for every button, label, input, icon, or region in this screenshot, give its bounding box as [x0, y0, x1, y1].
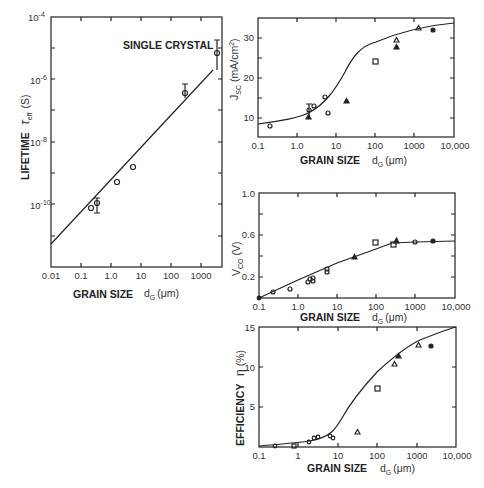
lifetime-y-label: LIFETIME: [19, 132, 31, 180]
svg-text:10-8: 10-8: [30, 136, 47, 148]
jsc-point: [326, 111, 330, 115]
svg-text:15: 15: [244, 322, 255, 333]
svg-text:10: 10: [243, 112, 254, 123]
jsc-point: [323, 95, 327, 99]
lifetime-x-unit: dG(μm): [144, 287, 179, 301]
jsc-point: [306, 115, 311, 120]
lifetime-point: [131, 165, 136, 170]
svg-text:0.1: 0.1: [252, 301, 265, 312]
efficiency-point: [312, 436, 316, 440]
jsc-x-label: GRAIN SIZE: [300, 154, 360, 166]
jsc-point: [312, 104, 316, 108]
svg-text:100: 100: [163, 270, 179, 281]
jsc-point: [268, 124, 272, 128]
efficiency-y-ticks: 5 10 15: [244, 322, 255, 412]
voc-point: [288, 287, 292, 291]
efficiency-point: [375, 386, 380, 391]
voc-axes-frame: [259, 193, 455, 298]
svg-text:1000: 1000: [190, 270, 211, 281]
lifetime-y-unit: τeff(S): [17, 94, 33, 125]
jsc-x-ticks: 0.1 1.0 10 100 1000 10,000: [251, 140, 469, 151]
svg-text:1.0: 1.0: [242, 188, 255, 199]
voc-point: [394, 238, 399, 243]
efficiency-point: [331, 436, 335, 440]
voc-chart: [257, 193, 455, 300]
efficiency-point: [355, 430, 360, 435]
efficiency-x-ticks: 0.1 1 10 100 1000 10,000: [252, 450, 471, 461]
lifetime-axes-frame: [51, 17, 222, 267]
svg-text:10: 10: [333, 450, 344, 461]
svg-text:10: 10: [331, 140, 342, 151]
voc-x-label: GRAIN SIZE: [300, 311, 360, 323]
voc-point: [431, 239, 435, 243]
efficiency-point: [273, 444, 277, 448]
svg-text:10-6: 10-6: [30, 74, 47, 86]
svg-text:100: 100: [369, 450, 385, 461]
voc-x-unit: dG(μm): [372, 311, 407, 325]
efficiency-x-unit: dG(μm): [380, 462, 415, 476]
voc-x-ticks: 0.1 1.0 10 100 1000 10,000: [252, 301, 470, 312]
svg-text:1000: 1000: [404, 301, 425, 312]
svg-text:10,000: 10,000: [440, 140, 469, 151]
svg-text:0.1: 0.1: [74, 270, 87, 281]
efficiency-chart: [259, 327, 456, 448]
efficiency-y-unit: η(%): [233, 350, 247, 376]
efficiency-point: [416, 343, 421, 348]
efficiency-point: [392, 362, 397, 367]
lifetime-chart: [51, 17, 222, 267]
svg-text:1000: 1000: [406, 450, 427, 461]
voc-point: [352, 255, 357, 260]
svg-text:10,000: 10,000: [442, 450, 471, 461]
efficiency-x-label: GRAIN SIZE: [307, 462, 367, 474]
jsc-chart: [258, 18, 454, 137]
lifetime-point: [115, 180, 120, 185]
figure-canvas: 10-4 10-6 10-8 10-10 0.01 0.1 1.0 10 100…: [0, 0, 484, 488]
efficiency-point: [307, 440, 311, 444]
lifetime-x-label: GRAIN SIZE: [73, 288, 133, 300]
efficiency-point: [429, 344, 433, 348]
svg-text:10-10: 10-10: [30, 199, 51, 211]
svg-text:0.1: 0.1: [251, 140, 264, 151]
svg-text:10-4: 10-4: [28, 11, 45, 23]
lifetime-fit-line: [51, 70, 213, 244]
jsc-y-label: JSC(mA/cm2): [228, 38, 242, 100]
svg-text:1.0: 1.0: [104, 270, 117, 281]
efficiency-y-label: EFFICIENCY: [234, 384, 246, 446]
svg-text:1000: 1000: [403, 140, 424, 151]
jsc-point: [394, 38, 399, 43]
jsc-fit-curve: [258, 23, 454, 124]
jsc-point: [394, 45, 399, 50]
svg-text:10: 10: [136, 270, 147, 281]
svg-text:20: 20: [243, 72, 254, 83]
svg-text:1.0: 1.0: [290, 140, 303, 151]
jsc-point: [373, 59, 378, 64]
svg-text:0.6: 0.6: [242, 229, 255, 240]
svg-text:5: 5: [250, 401, 255, 412]
lifetime-x-ticks: 0.01 0.1 1.0 10 100 1000: [42, 270, 212, 281]
jsc-x-unit: dG(μm): [372, 154, 407, 168]
jsc-point: [431, 28, 435, 32]
svg-text:30: 30: [243, 32, 254, 43]
lifetime-y-ticks: 10-4 10-6 10-8 10-10: [28, 11, 51, 211]
svg-text:100: 100: [367, 140, 383, 151]
svg-text:0.01: 0.01: [42, 270, 61, 281]
jsc-point: [416, 26, 421, 31]
jsc-y-ticks: 10 20 30: [243, 32, 254, 123]
svg-text:0.2: 0.2: [242, 271, 255, 282]
svg-text:0.1: 0.1: [252, 450, 265, 461]
single-crystal-annotation: SINGLE CRYSTAL: [123, 39, 214, 51]
efficiency-point: [316, 435, 320, 439]
svg-text:1: 1: [295, 450, 300, 461]
efficiency-fit-curve: [259, 327, 456, 446]
svg-text:10,000: 10,000: [441, 301, 470, 312]
jsc-point: [344, 99, 349, 104]
efficiency-point: [396, 354, 401, 359]
voc-y-label: VCO(V): [230, 241, 244, 276]
voc-point: [373, 240, 378, 245]
lifetime-point: [89, 206, 94, 211]
